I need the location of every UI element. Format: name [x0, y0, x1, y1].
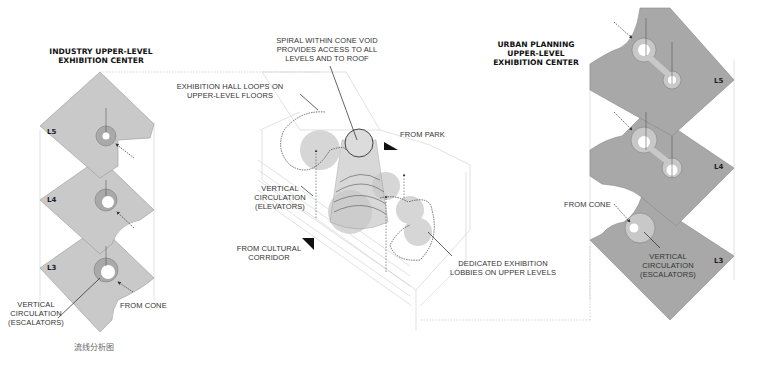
diagram-caption: 流线分析图 [74, 341, 114, 352]
dedicated-lobbies-label: DEDICATED EXHIBITION LOBBIES ON UPPER LE… [448, 259, 558, 277]
left-plate-l5 [40, 72, 154, 178]
left-panel-title: INDUSTRY UPPER-LEVEL EXHIBITION CENTER [38, 47, 164, 65]
left-level-l5: L5 [47, 128, 56, 136]
right-vertical-circulation-label: VERTICAL CIRCULATION (ESCALATORS) [636, 252, 700, 279]
right-level-l3: L3 [714, 257, 723, 265]
left-level-l3: L3 [47, 264, 56, 272]
from-park-triangle [384, 142, 398, 150]
vertical-circulation-elevators-label: VERTICAL CIRCULATION (ELEVATORS) [250, 184, 310, 211]
exhibition-hall-label: EXHIBITION HALL LOOPS ON UPPER-LEVEL FLO… [170, 82, 290, 100]
left-level-l4: L4 [47, 196, 56, 204]
right-level-l5: L5 [714, 77, 723, 85]
left-floor-stack [40, 72, 154, 332]
spiral-label: SPIRAL WITHIN CONE VOID PROVIDES ACCESS … [272, 36, 382, 63]
from-park-label: FROM PARK [400, 130, 460, 139]
right-from-cone-label: FROM CONE [564, 200, 624, 209]
right-panel-title: URBAN PLANNING UPPER-LEVEL EXHIBITION CE… [486, 40, 586, 67]
right-level-l4: L4 [714, 163, 723, 171]
from-cultural-corridor-label: FROM CULTURAL CORRIDOR [232, 244, 306, 262]
left-vertical-circulation-label: VERTICAL CIRCULATION (ESCALATORS) [4, 300, 68, 327]
left-from-cone-label: FROM CONE [120, 301, 180, 310]
